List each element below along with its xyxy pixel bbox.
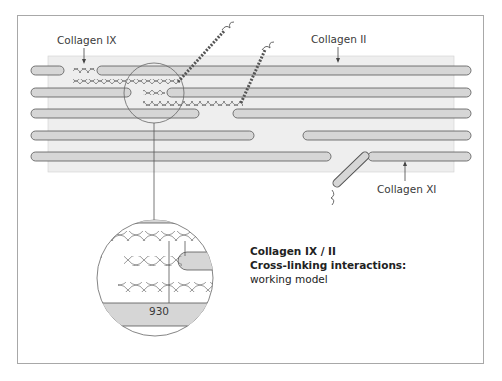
nc4-domain-icon [222, 22, 234, 30]
figure-caption: Collagen IX / II Cross-linking interacti… [250, 244, 406, 286]
collagen-xi-fibril [368, 152, 471, 161]
nc4-domain-icon [262, 42, 274, 50]
caption-note: working model [250, 272, 406, 286]
label-collagen-xi: Collagen XI [377, 183, 436, 195]
caption-subtitle: Cross-linking interactions: [250, 258, 406, 272]
collagen-diagram: Collagen IX Collagen II Collagen XI 930 [0, 0, 502, 381]
fibril [97, 66, 471, 75]
fibril [233, 109, 471, 118]
caption-title: Collagen IX / II [250, 244, 406, 258]
fibril [303, 131, 471, 140]
fibril [31, 109, 199, 118]
fibril [31, 88, 131, 97]
fibril [31, 66, 64, 75]
fibril [167, 88, 471, 97]
label-collagen-ii: Collagen II [311, 33, 366, 45]
helix [143, 101, 243, 106]
helix [73, 68, 95, 73]
fibril [31, 131, 254, 140]
fibril [31, 152, 331, 161]
label-collagen-ix: Collagen IX [57, 34, 116, 46]
helix [143, 90, 165, 95]
label-residue-930: 930 [149, 305, 169, 317]
